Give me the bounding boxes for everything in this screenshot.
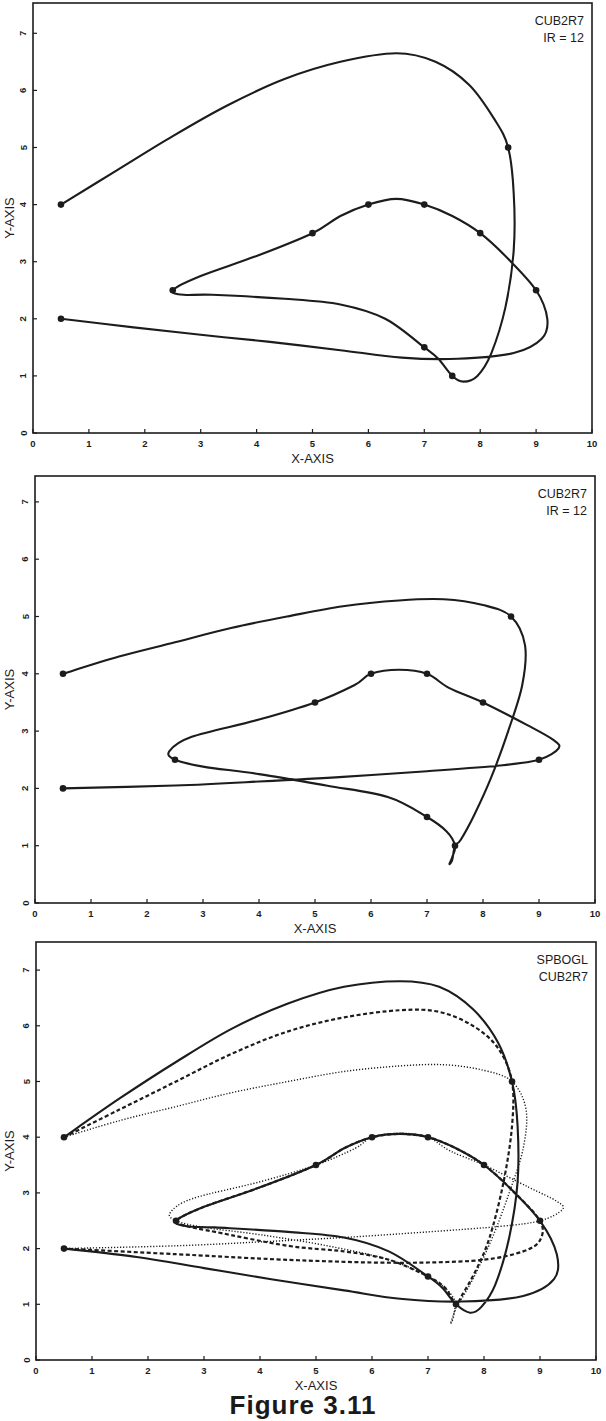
x-tick-label: 8: [481, 1365, 486, 1376]
y-tick-label: 0: [21, 1357, 32, 1362]
x-tick-label: 0: [33, 1365, 38, 1376]
data-point-marker: [452, 842, 459, 849]
y-tick-label: 7: [18, 31, 29, 36]
x-axis-label: X-AXIS: [291, 451, 334, 466]
data-point-marker: [477, 230, 484, 237]
y-tick-label: 4: [21, 1134, 32, 1140]
x-tick-label: 9: [537, 1365, 542, 1376]
legend-entry: IR = 12: [543, 31, 584, 45]
x-axis-label: X-AXIS: [294, 921, 337, 936]
legend: CUB2R7IR = 12: [535, 14, 584, 45]
legend-entry: IR = 12: [546, 504, 587, 518]
data-point-marker: [60, 671, 67, 678]
y-tick-label: 4: [18, 201, 29, 207]
control-points: [58, 144, 540, 379]
x-axis-ticks: 012345678910: [33, 1356, 601, 1376]
x-tick-label: 4: [257, 1365, 263, 1376]
y-tick-label: 1: [21, 1301, 32, 1307]
plot-frame: [33, 3, 592, 433]
y-tick-label: 3: [20, 728, 31, 733]
data-point-marker: [173, 1217, 180, 1224]
data-point-marker: [480, 699, 487, 706]
data-point-marker: [425, 1273, 432, 1280]
data-point-marker: [421, 201, 428, 208]
plot-2-cub2r7-ir12: 01234567891001234567X-AXISY-AXISCUB2R7IR…: [2, 476, 600, 936]
x-tick-label: 3: [200, 908, 205, 919]
x-tick-label: 7: [425, 1365, 430, 1376]
data-point-marker: [309, 230, 316, 237]
y-tick-label: 1: [18, 373, 29, 379]
y-tick-label: 3: [21, 1190, 32, 1195]
data-point-marker: [60, 785, 67, 792]
data-point-marker: [313, 1162, 320, 1169]
data-point-marker: [368, 671, 375, 678]
x-tick-label: 6: [366, 438, 371, 449]
data-point-marker: [172, 756, 179, 763]
data-point-marker: [449, 373, 456, 380]
x-tick-label: 10: [590, 908, 601, 919]
x-axis-ticks: 012345678910: [32, 899, 600, 919]
data-point-marker: [365, 201, 372, 208]
x-tick-label: 9: [533, 438, 538, 449]
legend-entry: CUB2R7: [535, 14, 584, 28]
data-point-marker: [453, 1301, 460, 1308]
series-solid: [63, 599, 559, 864]
y-axis-label: Y-AXIS: [2, 197, 17, 239]
figure-caption: Figure 3.11: [0, 1390, 606, 1421]
data-point-marker: [536, 756, 543, 763]
y-tick-label: 7: [20, 499, 31, 504]
legend: CUB2R7IR = 12: [538, 487, 587, 518]
x-axis-ticks: 012345678910: [30, 429, 597, 449]
plot-1-cub2r7-ir12: 01234567891001234567X-AXISY-AXISCUB2R7IR…: [2, 3, 597, 466]
data-point-marker: [369, 1134, 376, 1141]
x-tick-label: 7: [424, 908, 429, 919]
y-axis-label: Y-AXIS: [2, 1130, 17, 1172]
y-tick-label: 0: [18, 430, 29, 435]
data-point-marker: [58, 201, 65, 208]
x-tick-label: 5: [313, 1365, 319, 1376]
x-tick-label: 2: [145, 1365, 150, 1376]
y-tick-label: 5: [20, 613, 31, 619]
x-tick-label: 8: [480, 908, 485, 919]
x-tick-label: 5: [310, 438, 316, 449]
x-tick-label: 5: [312, 908, 318, 919]
x-tick-label: 1: [89, 1365, 95, 1376]
data-point-marker: [169, 287, 176, 294]
data-point-marker: [58, 316, 65, 323]
y-tick-label: 3: [18, 259, 29, 264]
series-solid: [64, 981, 558, 1313]
y-axis-ticks: 01234567: [18, 31, 38, 436]
legend-entry: CUB2R7: [539, 970, 588, 984]
data-point-marker: [61, 1134, 68, 1141]
x-tick-label: 6: [369, 1365, 374, 1376]
y-tick-label: 4: [20, 670, 31, 676]
data-point-marker: [425, 1134, 432, 1141]
x-tick-label: 1: [86, 438, 92, 449]
data-point-marker: [505, 144, 512, 151]
y-tick-label: 2: [21, 1246, 32, 1251]
legend: SPBOGLCUB2R7: [537, 953, 588, 984]
y-tick-label: 7: [21, 967, 32, 972]
x-tick-label: 4: [256, 908, 262, 919]
y-tick-label: 6: [21, 1023, 32, 1028]
y-axis-label: Y-AXIS: [2, 668, 17, 710]
data-point-marker: [533, 287, 540, 294]
y-tick-label: 5: [21, 1078, 32, 1084]
legend-entry: CUB2R7: [538, 487, 587, 501]
control-points: [60, 613, 543, 849]
y-tick-label: 0: [20, 900, 31, 905]
y-tick-label: 2: [20, 786, 31, 791]
y-tick-label: 5: [18, 144, 29, 150]
y-tick-label: 1: [20, 842, 31, 848]
plot-frame: [35, 476, 595, 903]
data-point-marker: [424, 671, 431, 678]
x-tick-label: 0: [32, 908, 37, 919]
y-tick-label: 6: [20, 557, 31, 562]
x-tick-label: 3: [198, 438, 203, 449]
x-tick-label: 7: [422, 438, 427, 449]
data-point-marker: [61, 1245, 68, 1252]
series-solid: [61, 53, 548, 381]
x-tick-label: 2: [144, 908, 149, 919]
data-point-marker: [421, 344, 428, 351]
x-tick-label: 10: [591, 1365, 602, 1376]
